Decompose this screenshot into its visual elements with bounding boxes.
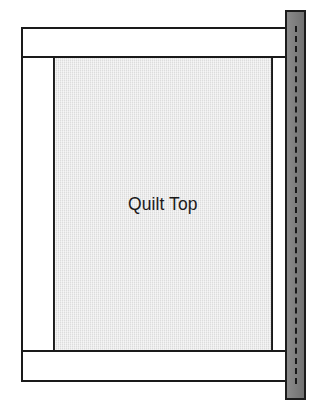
- quilt-top-label: Quilt Top: [128, 193, 198, 215]
- quilt-frame-diagram: Quilt Top: [0, 0, 321, 409]
- rail-dashed-center-line: [295, 26, 297, 384]
- left-side-rail: [21, 56, 55, 352]
- bottom-rail: [21, 350, 288, 382]
- quilt-top-panel: Quilt Top: [54, 56, 272, 352]
- top-rail: [21, 27, 288, 58]
- vertical-grey-rail: [285, 10, 306, 400]
